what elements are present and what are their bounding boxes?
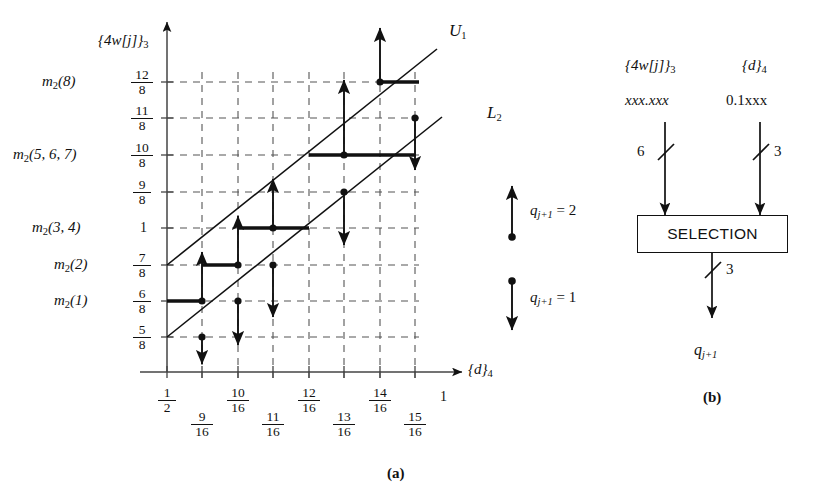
legend-down-arrow-icon [508,277,516,330]
boundary-lines [167,49,442,337]
y-tick-label: 6 8 [133,287,151,316]
slash-right-input [753,144,769,160]
panel-b-right-width-label: 3 [774,144,782,159]
row-label-m2-2: m2(2) [54,257,88,275]
x-axis-title: {d}4 [468,362,493,380]
x-tick-label: 15 16 [404,410,426,439]
panel-b-right-input-format: 0.1xxx [726,93,767,108]
y-tick-label: 9 8 [133,178,151,207]
x-tick-label-one: 1 [440,390,447,404]
panel-b-output-width-label: 3 [726,262,734,277]
x-tick-label: 12 16 [298,386,320,415]
row-label-m2-3-4: m2(3, 4) [32,220,81,238]
slash-left-input [658,144,674,160]
line-label-L2: L2 [487,104,502,124]
x-tick-label: 13 16 [333,410,355,439]
legend-label-q1: qj+1 = 1 [530,290,576,308]
y-tick-label: 10 8 [131,141,153,170]
legend-glyphs [508,186,516,330]
row-label-m2-5-6-7: m2(5, 6, 7) [13,147,77,165]
panel-a-caption: (a) [387,466,405,481]
up-arrow-marker [376,28,383,86]
down-arrow-marker [234,297,241,345]
y-tick-label: 12 8 [131,68,153,97]
y-tick-label: 7 8 [133,251,151,280]
x-tick-label: 9 16 [191,410,213,439]
x-tick-label: 1 2 [158,386,176,415]
y-tick-label: 11 8 [131,104,153,133]
down-arrow-marker [269,261,276,317]
x-tick-label: 14 16 [369,386,391,415]
line-label-U1: U1 [449,22,467,42]
selection-block[interactable]: SELECTION [637,215,788,253]
panel-b-right-input-name: {d}4 [742,58,767,76]
up-arrow-marker [198,252,205,305]
x-tick-label: 11 16 [262,410,284,439]
legend-label-q2: qj+1 = 2 [530,203,576,221]
selection-block-label: SELECTION [667,225,758,243]
up-arrow-marker [269,179,276,232]
figure-root: {4w[j]}3 {d}4 m2(8) m2(5, 6, 7) m2(3, 4)… [0,0,816,497]
plot-axes [140,22,462,378]
panel-b-left-width-label: 6 [637,144,645,159]
panel-b-left-input-format: xxx.xxx [625,93,669,108]
up-arrow-marker [340,80,347,159]
panel-b-caption: (b) [703,390,721,405]
slash-output [705,262,721,278]
legend-up-arrow-icon [508,186,516,241]
up-arrow-marker [234,216,241,269]
down-arrow-marker [198,333,205,364]
y-axis-title: {4w[j]}3 [98,33,149,51]
row-label-m2-1: m2(1) [54,293,88,311]
row-label-m2-8: m2(8) [42,74,76,92]
panel-b-left-input-name: {4w[j]}3 [625,58,676,76]
x-tick-label: 10 16 [227,386,249,415]
y-tick-label: 5 8 [133,323,151,352]
panel-b-output-name: qj+1 [694,342,717,361]
y-tick-label-one: 1 [140,221,147,235]
down-arrow-marker [411,114,418,170]
